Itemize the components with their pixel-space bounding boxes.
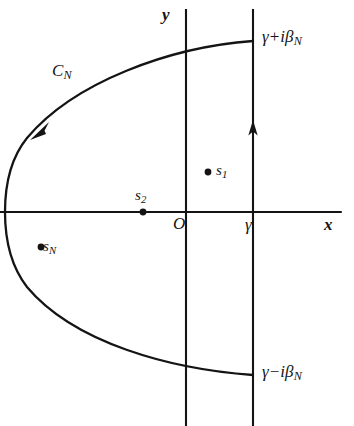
origin-label: O: [173, 215, 185, 232]
pole-label-s2-subscript: 2: [141, 193, 146, 205]
bottom-endpoint-operator: −: [270, 362, 280, 381]
pole-label-sN-base: s: [43, 238, 49, 254]
top-endpoint-gamma: γ: [262, 27, 269, 46]
pole-label-s2: s2: [135, 188, 146, 205]
bottom-endpoint-subscript: N: [294, 369, 302, 383]
bottom-endpoint-gamma: γ: [262, 362, 269, 381]
pole-label-s1-base: s: [216, 162, 222, 178]
bottom-endpoint-beta: β: [285, 362, 293, 381]
top-endpoint-subscript: N: [294, 34, 302, 48]
pole-label-s1: s1: [216, 163, 227, 180]
y-axis-label: y: [162, 6, 170, 23]
pole-label-sN-subscript: N: [49, 244, 56, 256]
contour-label-cn: CN: [52, 62, 72, 82]
top-endpoint-operator: +: [270, 27, 280, 46]
bottom-endpoint-label: γ−iβN: [262, 363, 302, 383]
top-endpoint-label: γ+iβN: [262, 28, 302, 48]
contour-label-subscript: N: [64, 68, 72, 82]
top-endpoint-beta: β: [285, 27, 293, 46]
pole-label-sN: sN: [43, 239, 56, 256]
pole-label-s1-subscript: 1: [222, 168, 227, 180]
pole-dot-s1: [205, 169, 212, 176]
complex-plane-contour-figure: y x O γ CN s1 s2 sN γ+iβN γ−iβN: [0, 0, 354, 426]
contour-label-base: C: [52, 61, 63, 80]
pole-label-s2-base: s: [135, 187, 141, 203]
gamma-tick-label: γ: [245, 216, 252, 233]
contour-curve-cn: [5, 41, 253, 375]
x-axis-label: x: [324, 216, 333, 233]
pole-dot-s2: [140, 209, 147, 216]
